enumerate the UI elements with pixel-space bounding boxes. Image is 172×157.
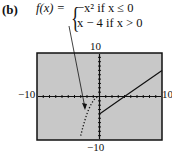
calculator-graph [0,0,172,157]
